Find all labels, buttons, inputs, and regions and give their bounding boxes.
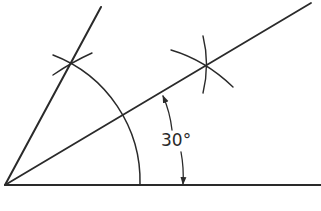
geometric-construction-diagram [0,0,321,211]
construction-arc [53,55,140,185]
angle-label: 30° [160,131,192,149]
dimension-arc-lower [181,152,183,184]
sixty-degree-line [5,7,101,185]
bisector-line [5,3,311,185]
dimension-arc-upper [163,96,172,130]
